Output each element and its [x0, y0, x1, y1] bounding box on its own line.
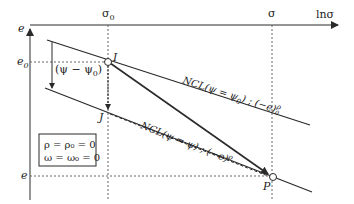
condition-omega: ω = ω₀ = 0 — [44, 152, 100, 163]
point-j-label: J — [97, 111, 104, 124]
x-axis-label: lnσ — [316, 8, 335, 21]
e0-label: e0 — [17, 55, 29, 70]
psi-difference-label: (ψ − ψ0) — [55, 63, 102, 78]
point-i-label: I — [112, 51, 118, 64]
sigma-label: σ — [268, 7, 276, 20]
y-axis-label: e — [18, 22, 25, 35]
ncl-diagram: lnσ e σ0 σ e0 e (ψ − ψ0) I J P NCL(ψ = ψ… — [0, 0, 354, 204]
point-i-marker — [105, 59, 112, 66]
point-p-label: P — [262, 180, 271, 193]
upper-ncl-label: NCL(ψ = ψ0) ; (−e)ρ0 — [180, 73, 283, 118]
lower-ncl-label: NCL(ψ = ψ) ; (−e)ρ — [138, 118, 235, 165]
sigma0-label: σ0 — [102, 7, 115, 22]
condition-rho: ρ = ρ₀ = 0 — [44, 139, 96, 150]
e-label: e — [21, 169, 28, 182]
point-p-marker — [270, 174, 277, 181]
